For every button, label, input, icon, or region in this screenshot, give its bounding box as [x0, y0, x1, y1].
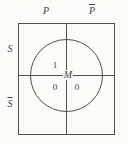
row-label-not-s: S	[8, 99, 13, 109]
cell-value-lower-left: 0	[53, 83, 58, 92]
cell-value-lower-right: 0	[75, 83, 80, 92]
circle-label-m: M	[63, 70, 73, 80]
column-label-p: P	[43, 6, 49, 16]
row-label-s: S	[8, 44, 13, 54]
column-label-not-p: P	[89, 6, 95, 16]
syllogism-venn-diagram: P P S S M 1 0 0	[0, 0, 128, 144]
cell-value-upper-left: 1	[53, 61, 58, 70]
